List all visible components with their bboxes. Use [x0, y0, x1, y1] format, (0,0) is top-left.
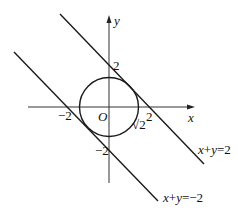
tick-x-neg-2: −2	[58, 108, 72, 123]
tick-y-neg-2: −2	[95, 143, 109, 158]
origin-label: O	[98, 109, 108, 124]
line-label-x-plus-y-eq-2: x+y=2	[197, 142, 231, 157]
x-axis-label: x	[187, 110, 194, 125]
y-axis-label: y	[112, 13, 120, 28]
line-label-x-plus-y-eq-neg2: x+y=−2	[162, 190, 203, 205]
tick-y-pos-2: 2	[113, 58, 120, 73]
diagram-canvas: y x O 2 2 −2 −2 √2 x+y=2 x+y=−2	[0, 0, 238, 211]
line-x-plus-y-eq-2	[60, 14, 204, 164]
radius-label: √2	[132, 117, 146, 132]
y-axis-arrow-icon	[107, 15, 112, 23]
x-axis-arrow-icon	[187, 105, 195, 110]
tick-x-pos-2: 2	[146, 109, 153, 124]
